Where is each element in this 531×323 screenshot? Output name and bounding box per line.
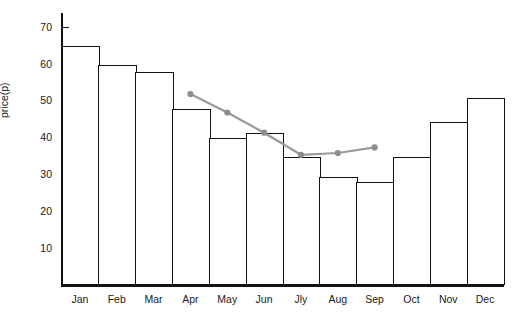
- bar: [393, 157, 432, 286]
- bar: [356, 182, 395, 285]
- trend-marker: [335, 150, 341, 156]
- x-axis-tick-label: Apr: [172, 294, 209, 305]
- y-axis-tick-label: 70: [18, 22, 52, 33]
- y-axis-tick-label: 10: [18, 243, 52, 254]
- y-axis-tick-label: 40: [18, 132, 52, 143]
- bar: [98, 65, 137, 286]
- x-axis-tick-label: May: [209, 294, 246, 305]
- trend-marker: [372, 144, 378, 150]
- x-axis-tick-label: Aug: [319, 294, 356, 305]
- y-axis-tick-label: 50: [18, 95, 52, 106]
- y-axis-tick-label: 20: [18, 206, 52, 217]
- bar: [209, 138, 248, 285]
- bar-chart-figure: price(p) 10203040506070 JanFebMarAprMayJ…: [0, 0, 531, 323]
- y-axis-title: price(p): [0, 82, 10, 118]
- x-axis-tick-label: Oct: [393, 294, 430, 305]
- y-axis-tick: [62, 27, 69, 28]
- x-axis-tick-label: Dec: [467, 294, 504, 305]
- bar: [283, 157, 322, 286]
- x-axis-tick-label: Jan: [62, 294, 99, 305]
- bar: [62, 46, 101, 285]
- x-axis-tick-label: Sep: [356, 294, 393, 305]
- y-axis-tick-label: 60: [18, 59, 52, 70]
- x-axis-tick-label: Jun: [246, 294, 283, 305]
- y-axis-tick-label: 30: [18, 169, 52, 180]
- bar: [319, 177, 358, 286]
- x-axis-tick-label: Jly: [283, 294, 320, 305]
- bar: [430, 122, 469, 286]
- bar: [246, 133, 285, 286]
- x-axis-tick-label: Nov: [430, 294, 467, 305]
- x-axis-tick-label: Mar: [135, 294, 172, 305]
- bar: [135, 72, 174, 286]
- bar: [467, 98, 506, 286]
- trend-marker: [224, 109, 230, 115]
- bar: [172, 109, 211, 286]
- trend-marker: [187, 91, 193, 97]
- x-axis-tick-label: Feb: [98, 294, 135, 305]
